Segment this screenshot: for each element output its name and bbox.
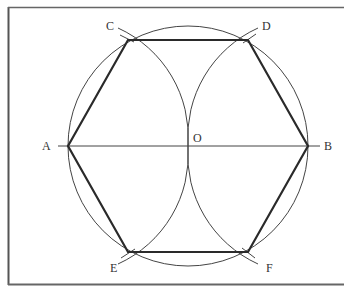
label-C: C — [106, 19, 114, 33]
label-D: D — [262, 19, 271, 33]
label-F: F — [266, 261, 273, 275]
label-B: B — [324, 139, 332, 153]
label-E: E — [110, 261, 117, 275]
label-O: O — [193, 131, 202, 145]
label-A: A — [42, 139, 51, 153]
hexagon-construction-diagram: A B C D E F O — [0, 0, 344, 289]
